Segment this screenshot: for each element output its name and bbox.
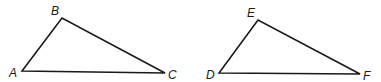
triangle-def: D E F	[206, 6, 371, 82]
triangle-def-outline	[219, 20, 360, 74]
vertex-label-a: A	[8, 66, 17, 80]
triangle-abc-outline	[22, 18, 165, 73]
vertex-label-e: E	[247, 6, 256, 20]
vertex-label-f: F	[363, 69, 371, 82]
triangle-abc: A B C	[8, 4, 177, 82]
vertex-label-d: D	[206, 68, 215, 82]
vertex-label-b: B	[51, 4, 59, 18]
similar-triangles-diagram: A B C D E F	[0, 0, 381, 82]
vertex-label-c: C	[168, 68, 177, 82]
